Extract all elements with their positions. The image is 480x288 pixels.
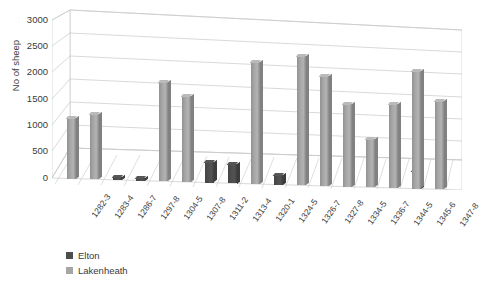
y-tick-label: 0 xyxy=(14,173,48,183)
bar-side xyxy=(306,54,309,185)
bar-elton-1313-4 xyxy=(228,164,237,184)
bar-lakenheath-1282-3 xyxy=(67,118,76,179)
bar-face xyxy=(343,104,352,187)
legend-item-elton[interactable]: Elton xyxy=(66,248,128,263)
bar-face xyxy=(297,56,306,185)
bar-side xyxy=(283,173,286,185)
bar-face xyxy=(366,139,375,187)
bar-lakenheath-1345-6 xyxy=(412,71,421,188)
x-tick-label: 1345-6 xyxy=(434,200,457,227)
bar-elton-1324-5 xyxy=(274,175,283,185)
bar-side xyxy=(260,60,263,184)
bar-lakenheath-1326-7 xyxy=(297,56,306,185)
bar-side xyxy=(237,161,240,183)
bars-layer xyxy=(52,8,462,190)
x-tick-label: 1286-7 xyxy=(135,193,158,220)
y-axis-tick-labels: 300025002000150010005000 xyxy=(12,0,48,288)
bar-side xyxy=(421,69,424,189)
y-tick-label: 3000 xyxy=(14,15,48,25)
legend-swatch-icon xyxy=(66,267,73,274)
bar-side xyxy=(444,99,447,189)
y-tick-label: 2000 xyxy=(14,67,48,77)
x-tick-label: 1304-5 xyxy=(181,194,204,221)
chart-legend: EltonLakenheath xyxy=(66,248,128,278)
bar-side xyxy=(352,101,355,186)
legend-label: Lakenheath xyxy=(78,265,128,276)
bar-lakenheath-1334-5 xyxy=(343,104,352,187)
bar-face xyxy=(435,101,444,189)
bar-lakenheath-1304-5 xyxy=(159,82,168,181)
bar-face xyxy=(228,164,237,184)
bar-face xyxy=(320,76,329,186)
bar-lakenheath-1347-8 xyxy=(435,101,444,189)
bar-face xyxy=(90,114,99,179)
x-tick-label: 1313-4 xyxy=(250,196,273,223)
bar-lakenheath-1283-4 xyxy=(90,114,99,179)
bar-side xyxy=(398,102,401,188)
legend-item-lakenheath[interactable]: Lakenheath xyxy=(66,263,128,278)
bar-side xyxy=(214,160,217,182)
y-tick-label: 2500 xyxy=(14,41,48,51)
bar-lakenheath-1344-5 xyxy=(389,104,398,188)
y-tick-label: 500 xyxy=(14,146,48,156)
bar-side xyxy=(99,112,102,179)
legend-label: Elton xyxy=(78,250,100,261)
bar-lakenheath-1307-8 xyxy=(182,96,191,182)
bar-lakenheath-1320-1 xyxy=(251,62,260,184)
x-tick-label: 1283-4 xyxy=(112,193,135,220)
bar-top xyxy=(135,176,146,179)
bar-face xyxy=(251,62,260,184)
bar-face xyxy=(389,104,398,188)
x-tick-label: 1282-3 xyxy=(89,192,112,219)
bar-side xyxy=(375,137,378,187)
x-tick-label: 1336-7 xyxy=(388,199,411,226)
legend-swatch-icon xyxy=(66,252,73,259)
bar-top xyxy=(66,116,77,119)
bar-face xyxy=(205,162,214,182)
x-tick-label: 1326-7 xyxy=(319,198,342,225)
bar-face xyxy=(412,71,421,188)
bar-face xyxy=(67,118,76,179)
plot-area xyxy=(52,8,462,190)
bar-side xyxy=(191,94,194,182)
x-tick-label: 1344-5 xyxy=(411,200,434,227)
x-tick-label: 1297-8 xyxy=(158,194,181,221)
bar-side xyxy=(329,74,332,186)
x-tick-label: 1324-5 xyxy=(296,197,319,224)
x-tick-label: 1327-8 xyxy=(342,198,365,225)
bar-top xyxy=(158,80,169,83)
bar-face xyxy=(182,96,191,182)
y-tick-label: 1000 xyxy=(14,120,48,130)
y-tick-label: 1500 xyxy=(14,94,48,104)
bar-lakenheath-1336-7 xyxy=(366,139,375,187)
bar-face xyxy=(274,175,283,185)
x-axis-tick-labels: 1282-31283-41286-71297-81304-51307-81311… xyxy=(52,190,464,250)
bar-side xyxy=(168,80,171,182)
bar-top xyxy=(342,102,353,105)
bar-elton-1286-7 xyxy=(113,177,122,180)
bar-top xyxy=(112,175,123,178)
bar-elton-1297-8 xyxy=(136,178,145,181)
x-tick-label: 1334-5 xyxy=(365,199,388,226)
x-tick-label: 1347-8 xyxy=(457,201,480,228)
bar-face xyxy=(159,82,168,181)
x-tick-label: 1311-2 xyxy=(227,195,250,222)
x-tick-label: 1307-8 xyxy=(204,195,227,222)
bar-side xyxy=(76,116,79,179)
bar-top xyxy=(227,162,238,165)
bar-elton-1311-2 xyxy=(205,162,214,182)
bar-lakenheath-1327-8 xyxy=(320,76,329,186)
x-tick-label: 1320-1 xyxy=(273,196,296,223)
